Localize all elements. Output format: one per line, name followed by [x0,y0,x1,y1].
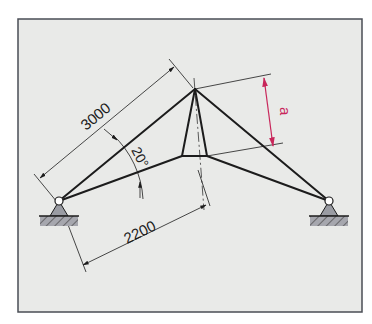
right-pin-icon [325,197,333,205]
diagram-canvas: 3000 20° 2200 a [0,0,372,324]
dimension-label-a: a [277,107,294,116]
drawing-frame [18,19,362,312]
left-pin-icon [55,197,63,205]
